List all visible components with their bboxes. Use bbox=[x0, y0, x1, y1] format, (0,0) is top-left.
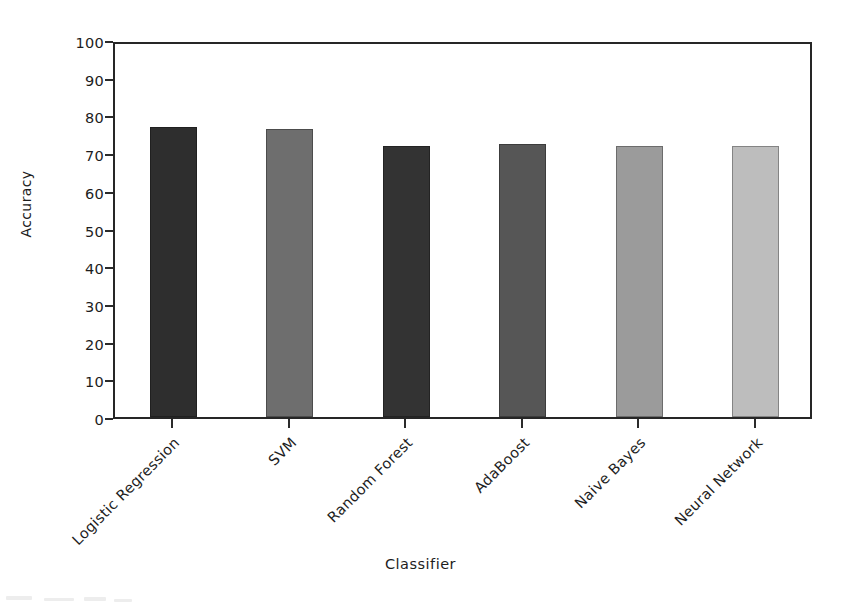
x-axis-tick-label: Neural Network bbox=[542, 434, 765, 611]
scan-artifact bbox=[44, 598, 74, 601]
bar-adaboost bbox=[499, 144, 546, 417]
bar-svm bbox=[266, 129, 313, 417]
x-axis-title: Classifier bbox=[0, 556, 841, 572]
y-axis-tick-mark bbox=[105, 192, 113, 194]
y-axis-tick-mark bbox=[105, 267, 113, 269]
bar-naive-bayes bbox=[616, 146, 663, 417]
scan-artifact bbox=[114, 599, 132, 602]
bar-random-forest bbox=[383, 146, 430, 417]
x-axis-tick-mark bbox=[637, 419, 639, 428]
y-axis-tick-label: 0 bbox=[0, 412, 113, 426]
y-axis-tick-mark bbox=[105, 343, 113, 345]
y-axis-tick-label: 20 bbox=[0, 337, 113, 351]
bar-logistic-regression bbox=[150, 127, 197, 417]
x-axis-tick-mark bbox=[521, 419, 523, 428]
y-axis-tick-mark bbox=[105, 79, 113, 81]
x-axis-tick-mark bbox=[404, 419, 406, 428]
y-axis-tick-mark bbox=[105, 380, 113, 382]
y-axis-tick-label: 10 bbox=[0, 374, 113, 388]
y-axis-tick-mark bbox=[105, 41, 113, 43]
scan-artifact bbox=[6, 596, 32, 600]
x-axis-tick-mark bbox=[171, 419, 173, 428]
y-axis-tick-label: 50 bbox=[0, 224, 113, 238]
bar-neural-network bbox=[732, 146, 779, 417]
x-axis-tick-mark bbox=[754, 419, 756, 428]
y-axis-tick-label: 30 bbox=[0, 299, 113, 313]
plot-area bbox=[113, 42, 812, 419]
y-axis: 0102030405060708090100 bbox=[0, 0, 113, 461]
y-axis-tick-label: 80 bbox=[0, 110, 113, 124]
y-axis-tick-mark bbox=[105, 305, 113, 307]
y-axis-tick-mark bbox=[105, 154, 113, 156]
y-axis-tick-mark bbox=[105, 418, 113, 420]
y-axis-tick-label: 90 bbox=[0, 73, 113, 87]
y-axis-tick-label: 40 bbox=[0, 261, 113, 275]
scan-artifact bbox=[84, 597, 106, 601]
y-axis-title: Accuracy bbox=[18, 144, 34, 264]
y-axis-tick-label: 70 bbox=[0, 148, 113, 162]
x-axis-tick-mark bbox=[288, 419, 290, 428]
bar-chart-figure: 0102030405060708090100 Accuracy Logistic… bbox=[0, 0, 841, 611]
y-axis-tick-mark bbox=[105, 230, 113, 232]
y-axis-tick-mark bbox=[105, 116, 113, 118]
y-axis-tick-label: 60 bbox=[0, 186, 113, 200]
y-axis-tick-label: 100 bbox=[0, 35, 113, 49]
